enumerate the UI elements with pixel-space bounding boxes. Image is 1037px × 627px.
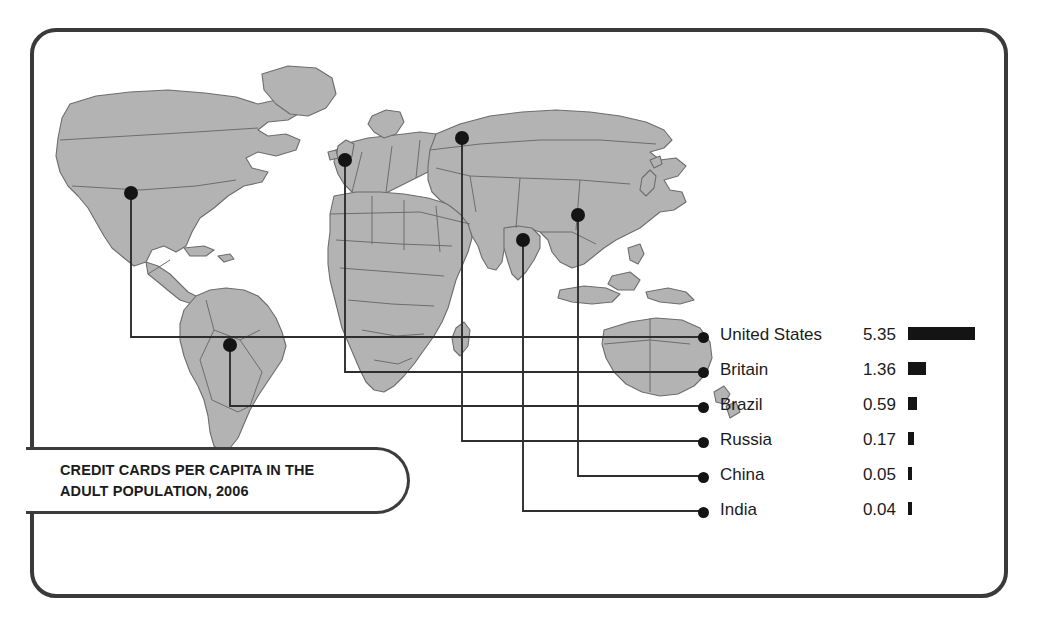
legend-dot-icon xyxy=(698,402,709,413)
legend-dot-icon xyxy=(698,332,709,343)
legend-row-brazil[interactable]: Brazil 0.59 xyxy=(694,392,994,427)
legend-dot-icon xyxy=(698,367,709,378)
legend-dot-icon xyxy=(698,472,709,483)
legend-country-label: Brazil xyxy=(720,395,763,415)
legend-row-britain[interactable]: Britain 1.36 xyxy=(694,357,994,392)
legend-country-label: United States xyxy=(720,325,822,345)
legend-bar xyxy=(908,362,926,375)
legend-row-china[interactable]: China 0.05 xyxy=(694,462,994,497)
legend-row-russia[interactable]: Russia 0.17 xyxy=(694,427,994,462)
legend-country-label: Russia xyxy=(720,430,772,450)
legend-value: 0.59 xyxy=(810,395,896,415)
page-title: CREDIT CARDS PER CAPITA IN THE ADULT POP… xyxy=(26,460,342,501)
legend-bar xyxy=(908,432,914,445)
legend-bar xyxy=(908,397,917,410)
legend-bar xyxy=(908,467,912,480)
legend-value: 0.05 xyxy=(810,465,896,485)
legend-value: 5.35 xyxy=(810,325,896,345)
legend-country-label: Britain xyxy=(720,360,768,380)
legend-bar xyxy=(908,502,912,515)
legend-list: United States 5.35 Britain 1.36 Brazil 0… xyxy=(694,322,994,532)
legend-row-india[interactable]: India 0.04 xyxy=(694,497,994,532)
legend-dot-icon xyxy=(698,507,709,518)
infographic-canvas: CREDIT CARDS PER CAPITA IN THE ADULT POP… xyxy=(0,0,1037,627)
legend-dot-icon xyxy=(698,437,709,448)
title-callout: CREDIT CARDS PER CAPITA IN THE ADULT POP… xyxy=(26,447,410,514)
legend-country-label: India xyxy=(720,500,757,520)
legend-bar xyxy=(908,327,975,340)
legend-value: 0.17 xyxy=(810,430,896,450)
legend-value: 1.36 xyxy=(810,360,896,380)
legend-value: 0.04 xyxy=(810,500,896,520)
legend-country-label: China xyxy=(720,465,764,485)
legend-row-united-states[interactable]: United States 5.35 xyxy=(694,322,994,357)
